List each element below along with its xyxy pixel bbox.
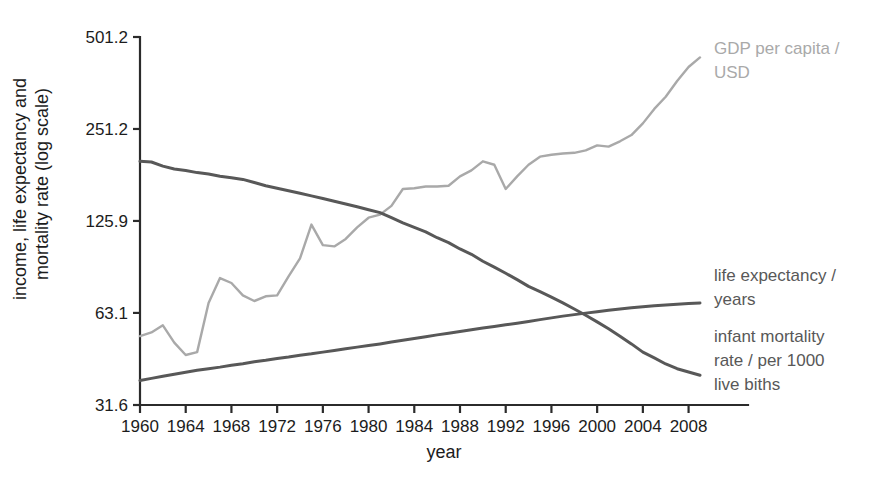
y-tick-label: 125.9 xyxy=(85,212,128,231)
series-line-life xyxy=(140,303,700,380)
y-tick-label: 63.1 xyxy=(95,304,128,323)
annotation-life-expectancy-line2: years xyxy=(714,290,756,309)
y-axis-title: income, life expectancy and mortality ra… xyxy=(10,78,52,300)
annotation-gdp: GDP per capita / USD xyxy=(714,39,840,82)
series-line-infant xyxy=(140,161,700,375)
x-tick-label: 2000 xyxy=(578,417,616,436)
annotation-life-expectancy-line1: life expectancy / xyxy=(714,266,836,285)
y-axis-ticks: 501.2251.2125.963.131.6 xyxy=(85,28,140,415)
annotation-infant-mortality: infant mortality rate / per 1000 live bi… xyxy=(714,327,825,394)
x-axis-title: year xyxy=(426,442,461,462)
x-tick-label: 1964 xyxy=(167,417,205,436)
x-tick-label: 1984 xyxy=(395,417,433,436)
x-axis-ticks: 1960196419681972197619801984198819921996… xyxy=(121,405,707,436)
chart-page: income, life expectancy and mortality ra… xyxy=(0,0,889,480)
y-tick-label: 501.2 xyxy=(85,28,128,47)
y-tick-label: 251.2 xyxy=(85,120,128,139)
x-tick-label: 1988 xyxy=(441,417,479,436)
x-tick-label: 1976 xyxy=(304,417,342,436)
x-tick-label: 1996 xyxy=(533,417,571,436)
x-tick-label: 1972 xyxy=(258,417,296,436)
annotation-infant-mortality-line2: rate / per 1000 xyxy=(714,351,825,370)
y-axis-title-line1: income, life expectancy and xyxy=(10,78,30,300)
annotation-life-expectancy: life expectancy / years xyxy=(714,266,836,309)
annotation-gdp-line1: GDP per capita / xyxy=(714,39,840,58)
y-tick-label: 31.6 xyxy=(95,396,128,415)
y-axis-title-line2: mortality rate (log scale) xyxy=(32,88,52,280)
x-tick-label: 1980 xyxy=(350,417,388,436)
x-tick-label: 1968 xyxy=(213,417,251,436)
x-tick-label: 2004 xyxy=(624,417,662,436)
annotation-gdp-line2: USD xyxy=(714,63,750,82)
x-tick-label: 1992 xyxy=(487,417,525,436)
annotation-infant-mortality-line3: live biths xyxy=(714,375,780,394)
series-paths xyxy=(140,57,700,380)
x-tick-label: 2008 xyxy=(670,417,708,436)
line-chart: income, life expectancy and mortality ra… xyxy=(0,0,889,480)
annotation-infant-mortality-line1: infant mortality xyxy=(714,327,825,346)
x-tick-label: 1960 xyxy=(121,417,159,436)
